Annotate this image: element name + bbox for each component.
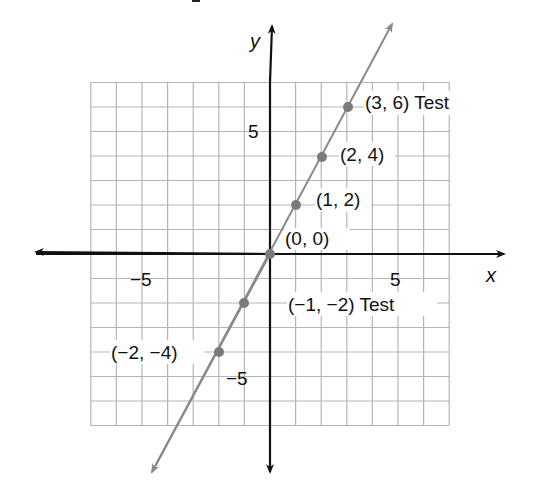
- x-axis-label: x: [485, 264, 497, 286]
- y-tick-label-neg5: −5: [226, 368, 248, 389]
- data-point: [291, 200, 301, 210]
- point-label: (3, 6) Test: [365, 92, 450, 113]
- point-label: (−1, −2) Test: [288, 294, 395, 315]
- data-point: [214, 347, 224, 357]
- data-point: [239, 298, 249, 308]
- y-tick-label-5: 5: [248, 121, 259, 142]
- y-axis-label: y: [248, 30, 261, 52]
- point-label: (−2, −4): [111, 342, 178, 363]
- data-point: [343, 102, 353, 112]
- y-axis-positive: [270, 26, 272, 82]
- coordinate-plane: y x −5 5 5 −5 (−2, −4) (−1, −2) Test (0,…: [0, 0, 533, 497]
- data-point: [265, 249, 275, 259]
- cropped-heading-fragment: [192, 0, 200, 2]
- point-label: (0, 0): [285, 228, 329, 249]
- x-tick-label-neg5: −5: [130, 269, 152, 290]
- point-label: (2, 4): [340, 144, 384, 165]
- data-point: [317, 152, 327, 162]
- point-label: (1, 2): [316, 189, 360, 210]
- x-tick-label-5: 5: [390, 269, 401, 290]
